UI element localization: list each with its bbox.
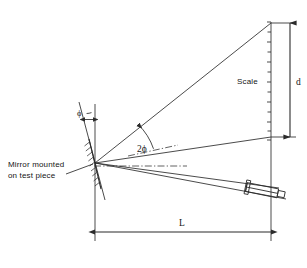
- reflected-ray-middle: [95, 137, 271, 163]
- scale-ticks: [267, 22, 271, 140]
- mirror-label-line2: on test piece: [8, 171, 56, 180]
- mirror-label-line1: Mirror mounted: [8, 160, 64, 169]
- optical-lever-diagram: Mirror mounted on test piece Scale d L ϕ…: [0, 0, 307, 268]
- telescope-eyepiece: [277, 190, 285, 197]
- angle-two-phi-label: 2ϕ: [137, 144, 147, 154]
- angle-arc-phi: [87, 113, 92, 114]
- deflected-ray-upper: [95, 23, 271, 163]
- d-label: d: [296, 77, 301, 87]
- telescope: [244, 180, 286, 202]
- L-label: L: [179, 218, 185, 228]
- mirror-tilt-line: [79, 102, 105, 200]
- sight-ray-lower-b: [95, 163, 279, 188]
- angle-phi-label: ϕ: [77, 108, 82, 118]
- scale-label: Scale: [237, 77, 258, 86]
- mirror-label-leader: [66, 164, 93, 174]
